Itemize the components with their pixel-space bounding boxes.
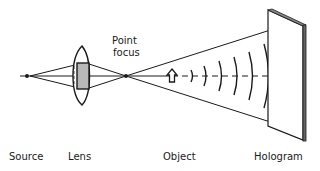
ray-lower-out — [89, 76, 126, 88]
hologram-label: Hologram — [254, 151, 303, 162]
lens — [73, 46, 90, 105]
hologram-plate — [268, 9, 306, 141]
lens-label: Lens — [68, 151, 91, 162]
point-focus-label-1: Point — [112, 35, 137, 46]
object-label: Object — [163, 151, 196, 162]
hologram-diagram: Point focus Source Lens Object Hologram — [0, 0, 320, 171]
object-arrow-icon — [167, 69, 177, 82]
ray-lower-in — [30, 76, 79, 88]
point-focus-label-2: focus — [113, 47, 140, 58]
source-point — [25, 74, 29, 78]
ray-upper-out — [89, 64, 126, 76]
source-label: Source — [9, 151, 43, 162]
ray-upper-in — [30, 64, 79, 76]
